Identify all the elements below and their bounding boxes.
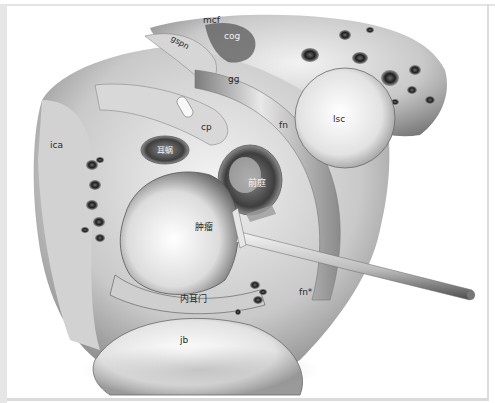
- label-vestibule: 前庭: [248, 178, 266, 188]
- label-cp: cp: [201, 122, 212, 132]
- label-tumor: 肿瘤: [195, 222, 213, 232]
- label-fn: fn: [279, 120, 288, 130]
- label-mcf: mcf: [203, 15, 220, 25]
- label-iam: 内耳门: [180, 294, 207, 304]
- anatomy-illustration: [0, 0, 495, 403]
- label-cochlea: 耳蜗: [157, 146, 173, 156]
- label-ica: ica: [50, 140, 63, 150]
- label-lsc: lsc: [333, 114, 345, 124]
- label-jb: jb: [180, 335, 188, 345]
- label-gg: gg: [228, 74, 239, 84]
- label-fn-star: fn*: [299, 287, 312, 297]
- label-cog: cog: [224, 31, 240, 41]
